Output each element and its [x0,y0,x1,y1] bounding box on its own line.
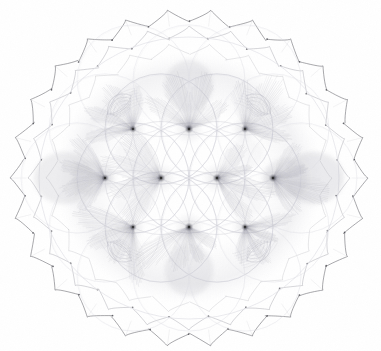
mandala-drawing [0,0,381,351]
artboard: Flower of Life Mandala graphite pencil o… [0,0,381,351]
paper-grain-overlay [0,0,381,351]
